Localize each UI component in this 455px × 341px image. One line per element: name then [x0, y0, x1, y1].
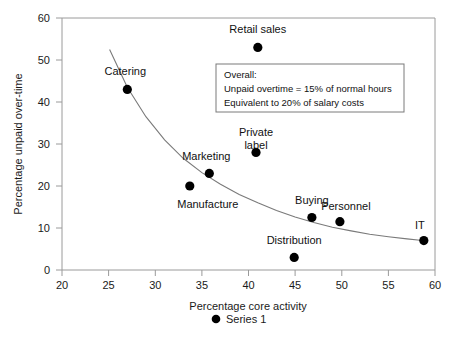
x-tick-label-55: 55: [382, 279, 394, 291]
x-tick-label-35: 35: [196, 279, 208, 291]
legend-marker-icon: [212, 315, 221, 324]
data-point-label: IT: [415, 219, 425, 231]
data-point-label: Catering: [105, 65, 147, 77]
x-tick-label-45: 45: [289, 279, 301, 291]
y-axis-title: Percentage unpaid over-time: [12, 73, 24, 214]
legend-label-series-1: Series 1: [226, 313, 266, 325]
x-tick-label-40: 40: [242, 279, 254, 291]
chart-canvas: 0 10 20 30 40 50 60 20 25 30 35 40 45 50: [0, 0, 455, 341]
y-tick-label-60: 60: [38, 12, 50, 24]
data-point-group: Manufacture: [177, 181, 238, 210]
data-point-group: Personnel: [321, 200, 371, 227]
data-point-marker: [290, 253, 299, 262]
data-point-label: Distribution: [267, 234, 322, 246]
data-point-marker: [307, 213, 316, 222]
data-point-label: Manufacture: [177, 198, 238, 210]
data-point-marker: [123, 85, 132, 94]
data-point-group: Retail sales: [229, 23, 286, 52]
x-tick-label-60: 60: [429, 279, 441, 291]
y-tick-label-30: 30: [38, 138, 50, 150]
y-tick-label-0: 0: [44, 264, 50, 276]
y-axis-ticks: 0 10 20 30 40 50 60: [38, 12, 62, 276]
x-tick-label-50: 50: [336, 279, 348, 291]
annotation-box: Overall: Unpaid overtime = 15% of normal…: [216, 64, 404, 112]
y-tick-label-20: 20: [38, 180, 50, 192]
x-tick-label-30: 30: [149, 279, 161, 291]
x-axis-ticks: 20 25 30 35 40 45 50 55 60: [56, 270, 441, 291]
data-point-label: Personnel: [321, 200, 371, 212]
data-point-group: Marketing: [182, 150, 230, 178]
data-point-marker: [205, 169, 214, 178]
data-points-layer: CateringRetail salesPrivatelabelMarketin…: [105, 23, 429, 262]
y-tick-label-50: 50: [38, 54, 50, 66]
annotation-line-1: Overall:: [224, 69, 257, 80]
y-tick-label-10: 10: [38, 222, 50, 234]
data-point-marker: [335, 217, 344, 226]
annotation-line-2: Unpaid overtime = 15% of normal hours: [224, 83, 392, 94]
scatter-chart: 0 10 20 30 40 50 60 20 25 30 35 40 45 50: [0, 0, 455, 341]
x-tick-label-25: 25: [102, 279, 114, 291]
data-point-label: Marketing: [182, 150, 230, 162]
data-point-marker: [185, 181, 194, 190]
y-tick-label-40: 40: [38, 96, 50, 108]
data-point-marker: [253, 43, 262, 52]
data-point-marker: [419, 236, 428, 245]
data-point-group: Catering: [105, 65, 147, 94]
data-point-label: Private: [239, 126, 273, 138]
x-axis-title: Percentage core activity: [189, 300, 307, 312]
data-point-label: label: [244, 139, 267, 151]
data-point-group: Privatelabel: [239, 126, 273, 157]
chart-legend: Series 1: [212, 313, 267, 325]
data-point-group: IT: [415, 219, 428, 246]
data-point-label: Retail sales: [229, 23, 286, 35]
x-tick-label-20: 20: [56, 279, 68, 291]
annotation-line-3: Equivalent to 20% of salary costs: [224, 97, 364, 108]
data-point-group: Distribution: [267, 234, 322, 262]
